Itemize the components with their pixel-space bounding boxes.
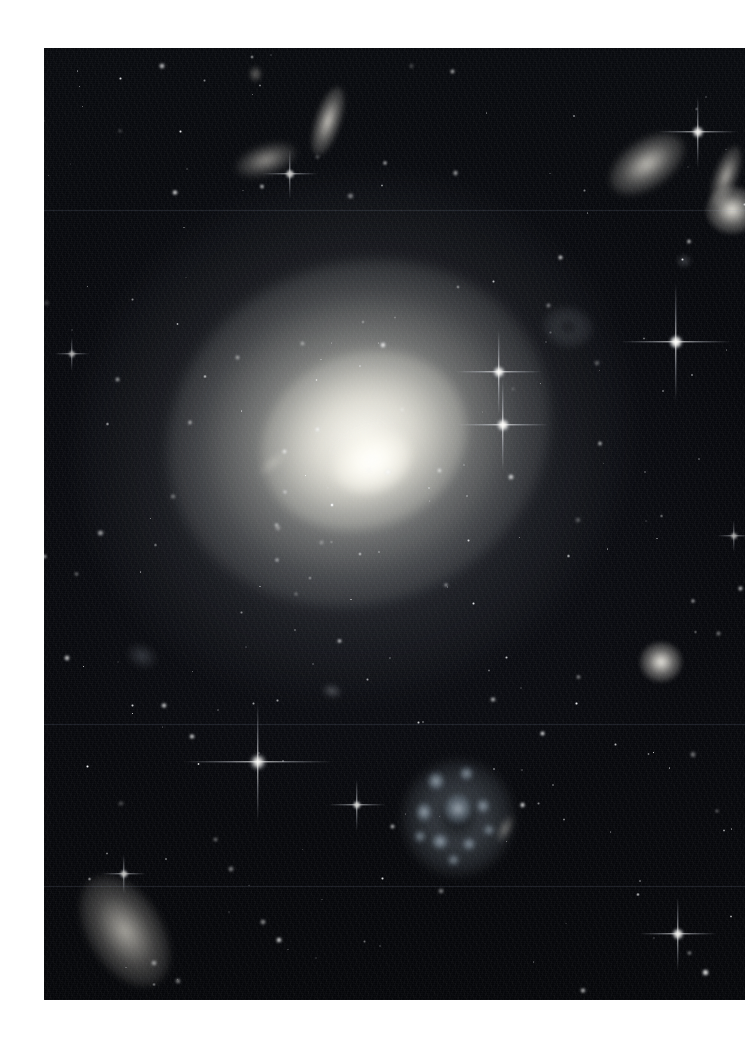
page-root: [0, 0, 753, 1044]
deep-field-astronomy-photograph: [44, 48, 745, 1000]
sky-background: [44, 48, 745, 1000]
